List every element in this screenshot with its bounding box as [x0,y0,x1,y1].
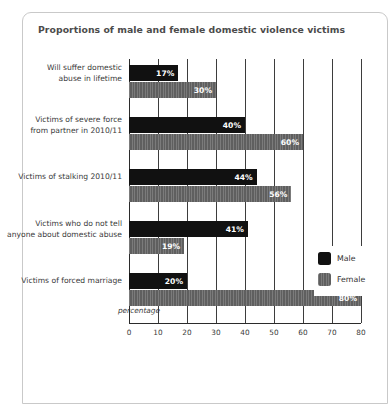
x-tick-label-20: 20 [182,328,191,337]
bar-group: Victims of severe forcefrom partner in 2… [129,117,361,150]
bar-group: Will suffer domesticabuse in lifetime17%… [129,65,361,98]
x-tick-label-80: 80 [356,328,365,337]
x-tick-label-70: 70 [327,328,336,337]
bar-value-label: 20% [165,277,183,286]
bar-male: 41% [129,221,248,237]
category-label: Victims of forced marriage [21,276,122,287]
category-label-line: Victims of stalking 2010/11 [18,172,122,183]
legend-label-male: Male [337,254,355,263]
bar-female: 30% [129,82,216,98]
x-tick-label-30: 30 [211,328,220,337]
bar-value-label: 30% [194,86,212,95]
category-label-line: Will suffer domestic [47,63,122,74]
bar-male: 17% [129,65,178,81]
chart-title: Proportions of male and female domestic … [38,24,345,35]
category-label-line: abuse in lifetime [47,74,122,85]
bar-male: 20% [129,273,187,289]
bar-value-label: 60% [281,138,299,147]
bar-male: 44% [129,169,257,185]
category-label: Victims of stalking 2010/11 [18,172,122,183]
category-label-line: Victims of severe force [30,115,122,126]
x-tick-label-50: 50 [269,328,278,337]
bar-value-label: 44% [234,173,252,182]
bar-value-label: 56% [269,190,287,199]
category-label-line: from partner in 2010/11 [30,126,122,137]
category-label-line: Victims who do not tell [7,219,122,230]
chart-legend: Male Female [314,246,382,296]
bar-value-label: 40% [223,121,241,130]
x-tick-label-10: 10 [153,328,162,337]
category-label: Will suffer domesticabuse in lifetime [47,63,122,84]
chart-card: Proportions of male and female domestic … [22,12,388,404]
bar-value-label: 41% [226,225,244,234]
x-tick-label-60: 60 [298,328,307,337]
category-label: Victims of severe forcefrom partner in 2… [30,115,122,136]
category-label-line: Victims of forced marriage [21,276,122,287]
bar-male: 40% [129,117,245,133]
bar-female: 56% [129,186,291,202]
bar-female: 60% [129,134,303,150]
bar-value-label: 17% [156,69,174,78]
category-label-line: anyone about domestic abuse [7,230,122,241]
x-axis-title: percentage [118,306,160,315]
category-label: Victims who do not tellanyone about dome… [7,219,122,240]
legend-label-female: Female [337,275,365,284]
legend-swatch-female-icon [318,273,331,286]
bar-value-label: 19% [162,242,180,251]
x-tick-label-40: 40 [240,328,249,337]
x-axis-line [129,323,361,324]
legend-item-male: Male [318,252,355,265]
legend-swatch-male-icon [318,252,331,265]
bar-group: Victims of stalking 2010/1144%56% [129,169,361,202]
bar-female: 19% [129,238,184,254]
legend-item-female: Female [318,273,365,286]
x-tick-label-0: 0 [127,328,132,337]
